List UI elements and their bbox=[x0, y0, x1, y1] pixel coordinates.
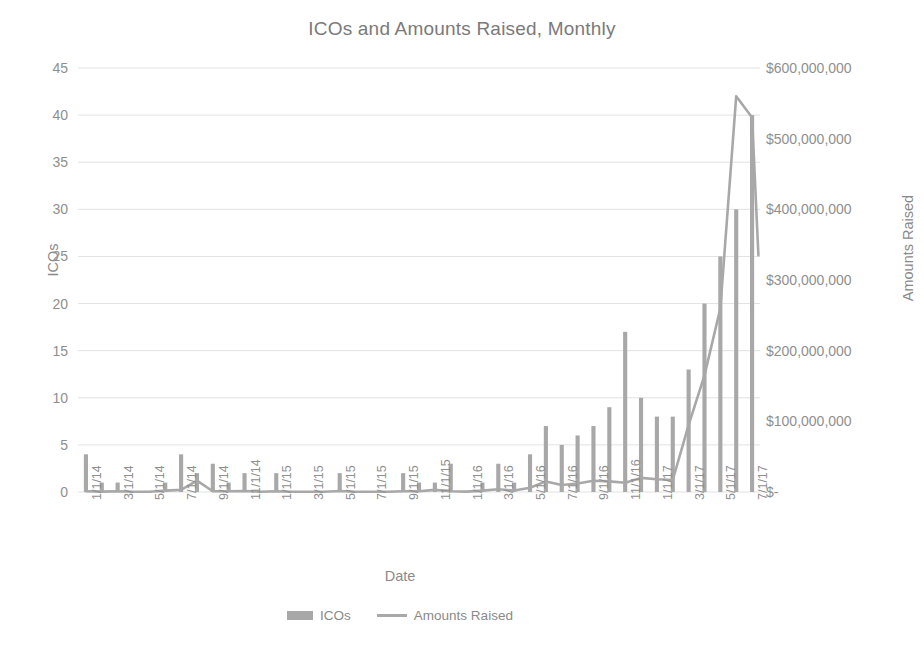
x-axis-tick-label: 3/1/15 bbox=[313, 465, 325, 500]
x-axis-tick-label: 3/1/17 bbox=[694, 465, 706, 500]
x-axis-tick-label: 5/1/14 bbox=[154, 465, 166, 500]
y-axis-left-tick-label: 10 bbox=[26, 391, 68, 405]
x-axis-tick-label: 1/1/17 bbox=[662, 465, 674, 500]
y-axis-right-tick-label: $600,000,000 bbox=[766, 61, 852, 75]
y-axis-left-tick-label: 40 bbox=[26, 108, 68, 122]
legend-item-amounts-raised[interactable]: Amounts Raised bbox=[377, 608, 513, 623]
x-axis-tick-label: 3/1/14 bbox=[123, 465, 135, 500]
x-axis-tick-label: 5/1/16 bbox=[535, 465, 547, 500]
bar bbox=[179, 454, 183, 492]
x-axis-tick-label: 1/1/14 bbox=[91, 465, 103, 500]
x-axis-tick-label: 11/1/16 bbox=[630, 459, 642, 500]
y-axis-right-tick-label: $300,000,000 bbox=[766, 273, 852, 287]
y-axis-left-tick-label: 0 bbox=[26, 485, 68, 499]
bar bbox=[655, 417, 659, 492]
bar bbox=[274, 473, 278, 492]
bar-swatch-icon bbox=[287, 611, 313, 620]
x-axis-tick-label: 1/1/15 bbox=[281, 465, 293, 500]
line-swatch-icon bbox=[377, 614, 407, 617]
bar bbox=[211, 464, 215, 492]
chart-legend: ICOs Amounts Raised bbox=[0, 608, 800, 623]
bar bbox=[401, 473, 405, 492]
y-axis-left-tick-label: 35 bbox=[26, 155, 68, 169]
bar bbox=[338, 473, 342, 492]
x-axis-tick-label: 3/1/16 bbox=[503, 465, 515, 500]
y-axis-left-tick-label: 25 bbox=[26, 249, 68, 263]
y-axis-left-tick-label: 15 bbox=[26, 344, 68, 358]
bar bbox=[702, 304, 706, 492]
y-axis-left-tick-label: 45 bbox=[26, 61, 68, 75]
legend-item-icos[interactable]: ICOs bbox=[287, 608, 351, 623]
bar bbox=[242, 473, 246, 492]
x-axis-tick-label: 11/1/15 bbox=[440, 459, 452, 500]
legend-label-amounts-raised: Amounts Raised bbox=[414, 608, 513, 623]
y-axis-right-tick-label: $400,000,000 bbox=[766, 202, 852, 216]
chart-container: ICOs and Amounts Raised, Monthly ICOs Am… bbox=[0, 0, 924, 657]
y-axis-right-tick-label: $500,000,000 bbox=[766, 132, 852, 146]
x-axis-tick-label: 7/1/17 bbox=[757, 465, 769, 500]
x-axis-tick-label: 1/1/16 bbox=[472, 465, 484, 500]
y-axis-left-tick-label: 30 bbox=[26, 202, 68, 216]
y-axis-right-tick-label: $200,000,000 bbox=[766, 344, 852, 358]
x-axis-tick-label: 5/1/17 bbox=[725, 465, 737, 500]
y-axis-left-tick-label: 20 bbox=[26, 297, 68, 311]
x-axis-tick-label: 7/1/15 bbox=[376, 465, 388, 500]
x-axis-tick-label: 7/1/14 bbox=[186, 465, 198, 500]
bar bbox=[734, 209, 738, 492]
x-axis-tick-label: 7/1/16 bbox=[567, 465, 579, 500]
legend-label-icos: ICOs bbox=[320, 608, 351, 623]
x-axis-tick-label: 9/1/14 bbox=[218, 465, 230, 500]
bar bbox=[84, 454, 88, 492]
plot-area bbox=[0, 0, 924, 657]
x-axis-tick-label: 9/1/16 bbox=[598, 465, 610, 500]
x-axis-tick-label: 9/1/15 bbox=[408, 465, 420, 500]
bar bbox=[623, 332, 627, 492]
y-axis-left-tick-label: 5 bbox=[26, 438, 68, 452]
bar bbox=[496, 464, 500, 492]
x-axis-tick-label: 11/1/14 bbox=[250, 459, 262, 500]
x-axis-tick-label: 5/1/15 bbox=[345, 465, 357, 500]
y-axis-right-tick-label: $100,000,000 bbox=[766, 414, 852, 428]
